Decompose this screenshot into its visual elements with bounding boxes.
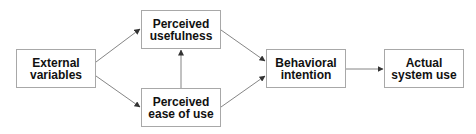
arrow-usefulness-to-intention	[221, 30, 265, 61]
node-label-line1: Perceived	[153, 96, 210, 108]
arrow-ease-to-intention	[221, 76, 265, 107]
node-label-line2: variables	[30, 69, 82, 81]
node-label-line1: External	[32, 57, 79, 69]
node-label-line1: Actual	[406, 57, 443, 69]
arrow-external-to-usefulness	[96, 29, 140, 62]
node-actual-system-use: Actual system use	[384, 49, 464, 88]
node-perceived-usefulness: Perceived usefulness	[141, 10, 221, 49]
node-label-line1: Behavioral	[275, 57, 336, 69]
node-label-line1: Perceived	[153, 18, 210, 30]
node-external-variables: External variables	[16, 49, 96, 88]
node-behavioral-intention: Behavioral intention	[266, 49, 346, 88]
node-label-line2: usefulness	[150, 30, 213, 42]
node-perceived-ease-of-use: Perceived ease of use	[141, 88, 221, 127]
node-label-line2: system use	[391, 69, 456, 81]
node-label-line2: ease of use	[148, 108, 213, 120]
arrow-external-to-ease	[96, 76, 140, 107]
node-label-line2: intention	[281, 69, 332, 81]
